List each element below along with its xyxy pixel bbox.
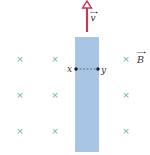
field-cross-icon: × [122, 90, 130, 100]
magnetic-field-crosses: × × × × × × × × × [16, 54, 130, 136]
field-cross-icon: × [122, 126, 130, 136]
svg-text:B: B [136, 54, 144, 65]
motional-emf-diagram: × × × × × × × × × v x y B [0, 0, 150, 155]
field-cross-icon: × [16, 54, 24, 64]
field-cross-icon: × [51, 90, 59, 100]
point-x-dot [74, 67, 77, 70]
point-x-label: x [67, 64, 72, 74]
velocity-label: v [90, 12, 98, 24]
magnetic-field-label: B [136, 52, 146, 66]
svg-text:v: v [91, 13, 96, 23]
conducting-bar [75, 37, 99, 152]
field-cross-icon: × [16, 90, 24, 100]
point-y-dot [96, 67, 99, 70]
point-y-label: y [100, 65, 107, 75]
field-cross-icon: × [16, 126, 24, 136]
field-cross-icon: × [51, 54, 59, 64]
field-cross-icon: × [51, 126, 59, 136]
field-cross-icon: × [122, 54, 130, 64]
